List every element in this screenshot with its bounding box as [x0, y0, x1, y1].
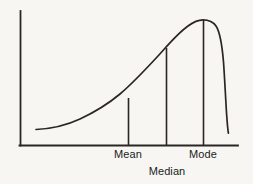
mode-label: Mode — [189, 149, 217, 160]
distribution-curve — [36, 20, 228, 133]
mean-label: Mean — [114, 149, 142, 160]
median-label: Median — [149, 166, 186, 177]
skewed-distribution-figure: Mean Mode Median — [0, 0, 253, 184]
